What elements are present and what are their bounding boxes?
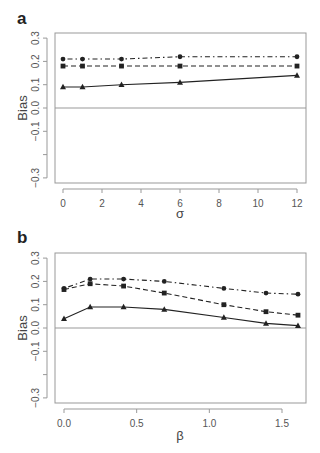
y-tick-label: 0.3 xyxy=(30,251,41,265)
y-tick-label: −0.3 xyxy=(30,168,41,188)
x-tick-label: 0 xyxy=(60,198,66,209)
x-tick-label: 8 xyxy=(216,198,222,209)
y-tick-label: 0.0 xyxy=(30,101,41,115)
y-axis-a: 0.30.20.10.0−0.1−0.3 xyxy=(30,31,47,188)
x-tick-label: 12 xyxy=(291,198,303,209)
series-b xyxy=(61,277,301,328)
data-point xyxy=(80,57,85,62)
x-tick-label: 2 xyxy=(99,198,105,209)
series-circle-dotdash xyxy=(61,54,300,61)
x-tick-label: 10 xyxy=(252,198,264,209)
series-square-dashed xyxy=(61,64,300,69)
y-axis-title-a: Bias xyxy=(15,95,30,121)
data-point xyxy=(61,64,66,69)
data-point xyxy=(296,292,301,297)
x-axis-title-b: β xyxy=(176,428,183,443)
data-point xyxy=(295,54,300,59)
x-axis-b: 0.00.51.01.5 xyxy=(57,409,289,429)
data-point xyxy=(294,72,300,78)
y-tick-label: 0.2 xyxy=(30,274,41,288)
data-point xyxy=(121,284,126,289)
y-axis-title-b: Bias xyxy=(15,315,30,341)
series-triangle-solid xyxy=(60,72,300,89)
y-tick-label: 0.2 xyxy=(30,54,41,68)
data-point xyxy=(80,64,85,69)
x-tick-label: 0.0 xyxy=(57,418,71,429)
x-tick-label: 0.5 xyxy=(130,418,144,429)
data-point xyxy=(221,286,226,291)
y-tick-label: 0.1 xyxy=(30,297,41,311)
figure: a 0.30.20.10.0−0.1−0.3 024681012 Bias σ … xyxy=(0,0,320,453)
data-point xyxy=(119,64,124,69)
data-point xyxy=(221,302,226,307)
data-point xyxy=(62,287,67,292)
data-point xyxy=(88,277,93,282)
data-point xyxy=(178,64,183,69)
panel-label-a: a xyxy=(17,9,27,28)
y-tick-label: 0.3 xyxy=(30,31,41,45)
y-tick-label: 0.1 xyxy=(30,77,41,91)
data-point xyxy=(61,57,66,62)
y-tick-label: −0.1 xyxy=(30,341,41,361)
data-point xyxy=(119,57,124,62)
panel-b: b 0.30.20.10.0−0.1−0.3 0.00.51.01.5 Bias… xyxy=(15,228,306,443)
y-tick-label: −0.3 xyxy=(30,388,41,408)
panel-label-b: b xyxy=(17,228,27,247)
x-tick-label: 1.0 xyxy=(202,418,216,429)
x-tick-label: 4 xyxy=(138,198,144,209)
y-axis-b: 0.30.20.10.0−0.1−0.3 xyxy=(30,251,47,408)
y-tick-label: 0.0 xyxy=(30,321,41,335)
series-a xyxy=(60,54,300,89)
data-point xyxy=(88,281,93,286)
x-axis-title-a: σ xyxy=(176,206,184,221)
series-triangle-solid xyxy=(61,304,301,328)
data-point xyxy=(162,279,167,284)
x-tick-label: 1.5 xyxy=(275,418,289,429)
y-tick-label: −0.1 xyxy=(30,121,41,141)
data-point xyxy=(178,54,183,59)
panel-a: a 0.30.20.10.0−0.1−0.3 024681012 Bias σ xyxy=(15,9,306,221)
series-circle-dotdash xyxy=(62,277,301,297)
data-point xyxy=(121,277,126,282)
data-point xyxy=(296,313,301,318)
data-point xyxy=(295,64,300,69)
data-point xyxy=(264,291,269,296)
data-point xyxy=(264,309,269,314)
data-point xyxy=(162,291,167,296)
